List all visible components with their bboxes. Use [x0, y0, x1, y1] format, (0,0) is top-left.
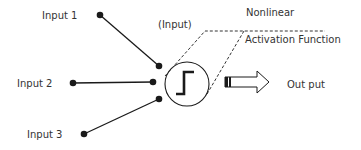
step-function-icon — [176, 72, 194, 94]
output-arrow-icon — [225, 71, 269, 93]
input-2-label: Input 2 — [17, 79, 52, 89]
activation-label-line2: Activation Function — [245, 35, 341, 45]
input-2-connection — [73, 82, 153, 83]
input-1-start-dot — [97, 12, 104, 19]
activation-label-line1: Nonlinear — [246, 8, 294, 18]
input-3-end-dot — [156, 96, 163, 103]
input-2-start-dot — [70, 80, 77, 87]
input-1-connection — [100, 15, 159, 66]
input-1-end-dot — [156, 63, 163, 70]
input-3-connection — [84, 99, 159, 134]
neuron-node — [165, 62, 209, 106]
input-2-end-dot — [150, 79, 157, 86]
input-1-label: Input 1 — [42, 11, 77, 21]
output-label: Out put — [287, 80, 325, 90]
input-3-start-dot — [81, 131, 88, 138]
input-3-label: Input 3 — [27, 130, 62, 140]
node-input-label: (Input) — [158, 20, 192, 30]
